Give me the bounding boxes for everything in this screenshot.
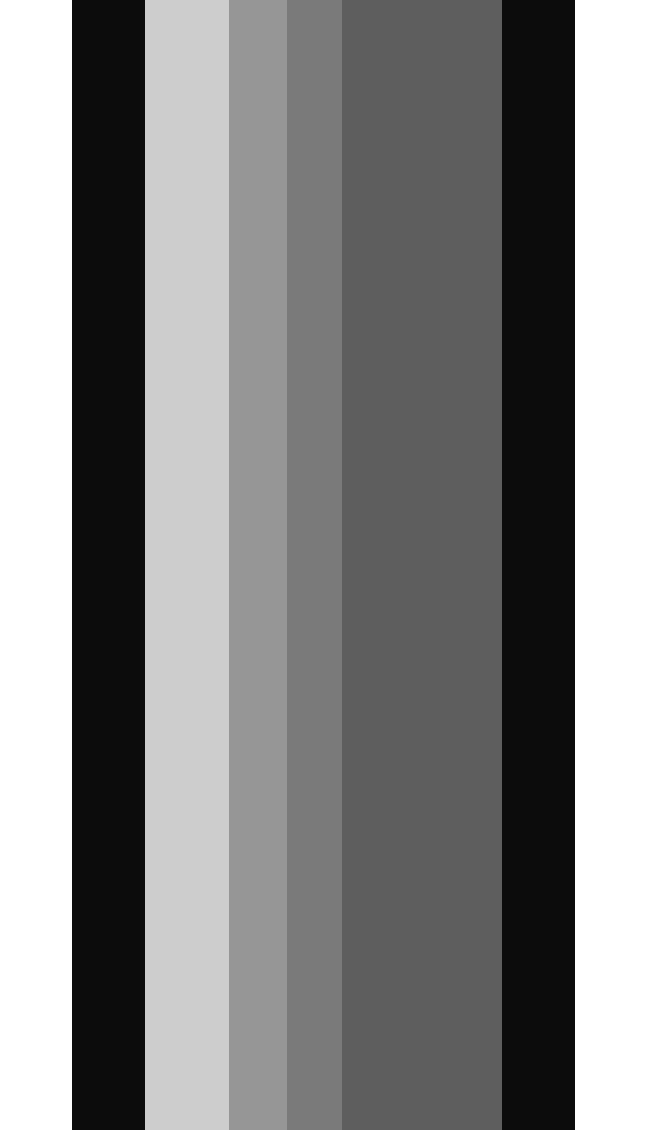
stripe-black-left <box>72 0 145 1130</box>
stripe-gray <box>287 0 342 1130</box>
stripe-black-right <box>502 0 575 1130</box>
stripe-dark-gray <box>342 0 502 1130</box>
stripe-mid-gray <box>229 0 287 1130</box>
stripe-light-gray <box>145 0 229 1130</box>
